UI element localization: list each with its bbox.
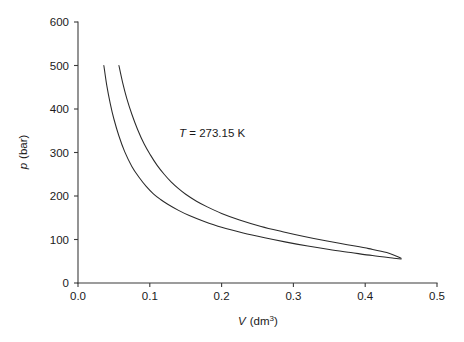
isotherm-chart: 0100200300400500600 0.00.10.20.30.40.5 p… — [0, 0, 464, 342]
annotation-value: 273.15 K — [199, 127, 245, 139]
y-tick-label: 400 — [50, 103, 69, 115]
x-axis-unit-close: ) — [274, 315, 278, 327]
x-tick-label: 0.4 — [357, 290, 374, 302]
annotation-equals: = — [186, 127, 199, 139]
y-tick-label: 0 — [63, 277, 69, 289]
y-tick-label: 500 — [50, 60, 69, 72]
y-tick-label: 100 — [50, 234, 69, 246]
y-axis-unit: (bar) — [17, 134, 29, 158]
y-tick-label: 300 — [50, 147, 69, 159]
y-tick-label: 600 — [50, 16, 69, 28]
x-tick-label: 0.5 — [429, 290, 445, 302]
x-tick-label: 0.0 — [70, 290, 86, 302]
y-axis-symbol: p — [17, 162, 29, 170]
y-tick-label: 200 — [50, 190, 69, 202]
y-axis-title: p(bar) — [17, 134, 29, 170]
x-tick-label: 0.2 — [214, 290, 230, 302]
x-tick-label: 0.3 — [285, 290, 301, 302]
x-axis-unit-base: (dm — [250, 315, 270, 327]
x-tick-label: 0.1 — [142, 290, 158, 302]
temperature-annotation: T = 273.15 K — [179, 127, 246, 139]
x-axis-symbol: V — [238, 315, 247, 327]
